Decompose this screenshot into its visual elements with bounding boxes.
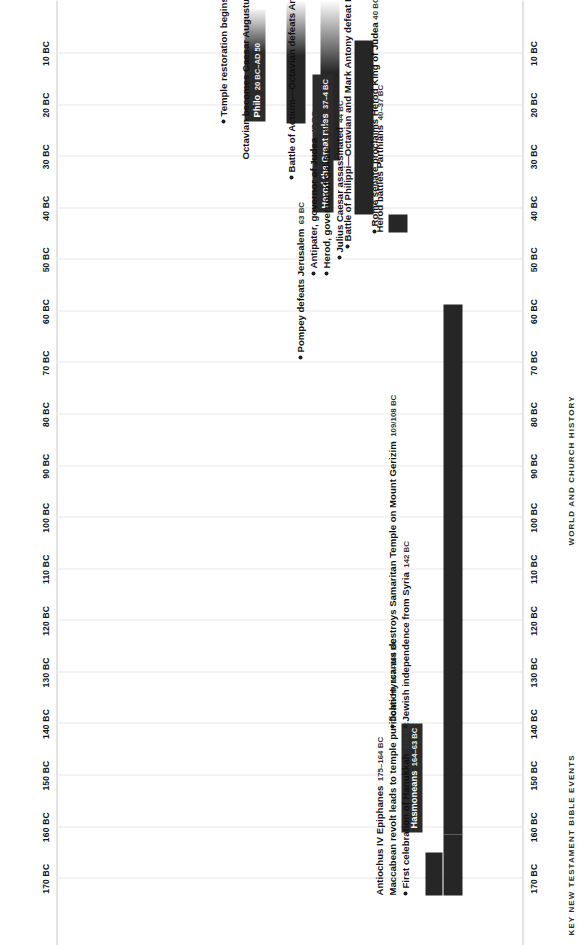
tick-label-bottom: 50 BC [528,247,538,272]
event-label-philippi: Battle of Philippi—Octavian and Mark Ant… [342,0,352,248]
tick-label-top: 70 BC [40,350,50,375]
axis-tick-110bc: 110 BC110 BC [0,568,1,569]
tick-label-top: 50 BC [40,247,50,272]
tick-label-bottom: 30 BC [528,144,538,169]
bullet-icon [289,175,293,179]
event-label-augustus: Octavian becomes Caesar Augustus and rul… [240,0,250,159]
bullet-icon [403,724,407,728]
tick-label-top: 40 BC [40,195,50,220]
gridline [56,258,522,259]
bullet-icon [337,255,341,259]
axis-tick-10bc: 10 BC10 BC [0,52,1,53]
tick-label-top: 150 BC [40,760,50,790]
event-date: 142 BC [401,540,410,567]
event-title: John Hyrcanus destroys Samaritan Temple … [386,441,397,721]
bar-maccabean [425,852,442,895]
tick-label-bottom: 110 BC [528,554,538,584]
tick-label-bottom: 120 BC [528,605,538,635]
event-label-temple: Temple restoration begins 20 BC [218,0,228,123]
event-title: Jewish independence from Syria [399,572,410,721]
timeline-canvas: 10 BC10 BC20 BC20 BC30 BC30 BC40 BC40 BC… [0,0,578,945]
axis-tick-100bc: 100 BC100 BC [0,516,1,517]
event-label-actium: Battle of Actium—Octavian defeats Antony… [286,0,296,179]
chip-title: Philo [251,94,261,117]
tick-label-top: 90 BC [40,453,50,478]
axis-tick-160bc: 160 BC160 BC [0,826,1,827]
tick-label-bottom: 140 BC [528,708,538,738]
axis-line-top [56,0,57,945]
axis-tick-70bc: 70 BC70 BC [0,361,1,362]
event-title: Herod battles Parthians [373,124,384,232]
lane-title-world-and-church-history: WORLD AND CHURCH HISTORY [566,395,575,545]
tick-label-top: 110 BC [40,554,50,584]
bar-antiochus [443,834,462,895]
bullet-icon [298,355,302,359]
bar-parthians [388,214,407,232]
lane-title-key-nt-bible-events: KEY NEW TESTAMENT BIBLE EVENTS [566,754,575,935]
tick-label-bottom: 170 BC [528,863,538,893]
timeline-figure: 10 BC10 BC20 BC20 BC30 BC30 BC40 BC40 BC… [0,0,578,945]
tick-label-top: 20 BC [40,92,50,117]
chip-date: 20 BC–AD 50 [252,43,261,90]
bullet-icon [390,724,394,728]
event-date: 40 BC [370,0,379,19]
event-title: Battle of Actium—Octavian defeats Antony… [286,0,296,179]
tick-label-bottom: 130 BC [528,657,538,687]
tick-label-bottom: 80 BC [528,401,538,426]
tick-label-bottom: 10 BC [528,40,538,65]
event-label-hanukkah: First celebration of Hanukkah 164 BC [395,722,412,895]
axis-tick-60bc: 60 BC60 BC [0,310,1,311]
event-title: Battle of Philippi—Octavian and Mark Ant… [342,0,352,248]
tick-label-top: 100 BC [40,502,50,532]
tick-label-bottom: 20 BC [528,92,538,117]
axis-tick-130bc: 130 BC130 BC [0,671,1,672]
bullet-icon [345,244,349,248]
bullet-icon [324,271,328,275]
bullet-icon [221,119,225,123]
event-label-parthians: Herod battles Parthians 40–37 BC [369,84,386,232]
tick-label-top: 30 BC [40,144,50,169]
event-date: 109/108 BC [388,394,397,436]
event-date: 40–37 BC [375,84,384,120]
tick-label-top: 160 BC [40,812,50,842]
tick-label-bottom: 100 BC [528,502,538,532]
axis-tick-20bc: 20 BC20 BC [0,104,1,105]
bullet-icon [311,271,315,275]
tick-label-top: 130 BC [40,657,50,687]
event-title-text: Temple restoration begins [217,0,228,116]
axis-tick-150bc: 150 BC150 BC [0,774,1,775]
event-title: First celebration of Hanukkah [399,753,410,888]
tick-label-top: 80 BC [40,401,50,426]
axis-tick-120bc: 120 BC120 BC [0,619,1,620]
tick-label-bottom: 60 BC [528,298,538,323]
event-title: Temple restoration begins 20 BC [218,0,228,123]
axis-tick-80bc: 80 BC80 BC [0,413,1,414]
tick-label-bottom: 70 BC [528,350,538,375]
bar-hasmoneans [443,304,462,834]
tick-label-bottom: 160 BC [528,812,538,842]
event-title: Octavian becomes Caesar Augustus and rul… [240,0,250,159]
tick-label-bottom: 150 BC [528,760,538,790]
axis-tick-140bc: 140 BC140 BC [0,722,1,723]
tick-label-top: 120 BC [40,605,50,635]
chip-date: 37–4 BC [320,79,329,109]
tick-label-top: 10 BC [40,40,50,65]
bullet-icon [403,891,407,895]
tick-label-top: 170 BC [40,863,50,893]
event-title-text: Battle of Philippi—Octavian and Mark Ant… [341,0,352,241]
axis-tick-170bc: 170 BC170 BC [0,877,1,878]
tick-label-bottom: 40 BC [528,195,538,220]
event-label-gerizim: John Hyrcanus destroys Samaritan Temple … [382,394,399,728]
tick-label-bottom: 90 BC [528,453,538,478]
axis-tick-30bc: 30 BC30 BC [0,155,1,156]
event-title-text: Battle of Actium—Octavian defeats Antony… [285,0,296,172]
tick-label-top: 140 BC [40,708,50,738]
axis-tick-40bc: 40 BC40 BC [0,207,1,208]
gridline [56,207,522,208]
event-title-text: Octavian becomes Caesar Augustus and rul… [239,0,250,159]
axis-tick-90bc: 90 BC90 BC [0,465,1,466]
axis-tick-50bc: 50 BC50 BC [0,258,1,259]
tick-label-top: 60 BC [40,298,50,323]
axis-line-bottom [522,0,523,945]
